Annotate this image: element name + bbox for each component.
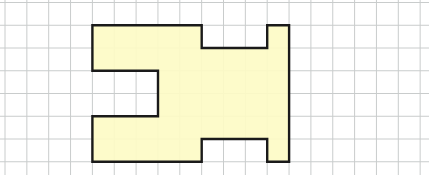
grid-figure: [0, 0, 429, 175]
grid-diagram: [0, 0, 429, 175]
